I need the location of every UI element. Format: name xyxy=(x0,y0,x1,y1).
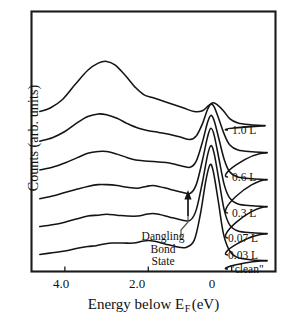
x-tick-label-0: 0 xyxy=(192,276,232,292)
curve-label-0_3L: 0.3 L xyxy=(232,207,256,219)
dangling-bond-state-annotation: Dangling Bond State xyxy=(120,230,206,268)
x-tick-label-4: 4.0 xyxy=(41,276,81,292)
annotation-line-1: Dangling xyxy=(120,230,206,243)
x-axis-label-unit: (eV) xyxy=(192,296,219,312)
x-axis-label-main: Energy below E xyxy=(88,296,184,312)
annotation-line-3: State xyxy=(120,255,206,268)
curve-label-clean: "clean" xyxy=(230,263,264,275)
curve-label-0_6L: 0.6 L xyxy=(232,171,256,183)
x-tick-label-2: 2.0 xyxy=(117,276,157,292)
curve-label-0_03L: 0.03 L xyxy=(228,249,258,261)
curve-label-1_0L: 1.0 L xyxy=(232,124,256,136)
curve-label-0_07L: 0.07 L xyxy=(228,232,258,244)
y-axis-label: Counts (arb. units) xyxy=(26,38,42,238)
x-axis-label-subscript: F xyxy=(184,303,192,314)
annotation-line-2: Bond xyxy=(120,243,206,256)
photoemission-spectra-figure: Counts (arb. units) 4.0 2.0 0 Energy bel… xyxy=(0,0,288,323)
x-axis-label: Energy below EF(eV) xyxy=(31,296,276,314)
